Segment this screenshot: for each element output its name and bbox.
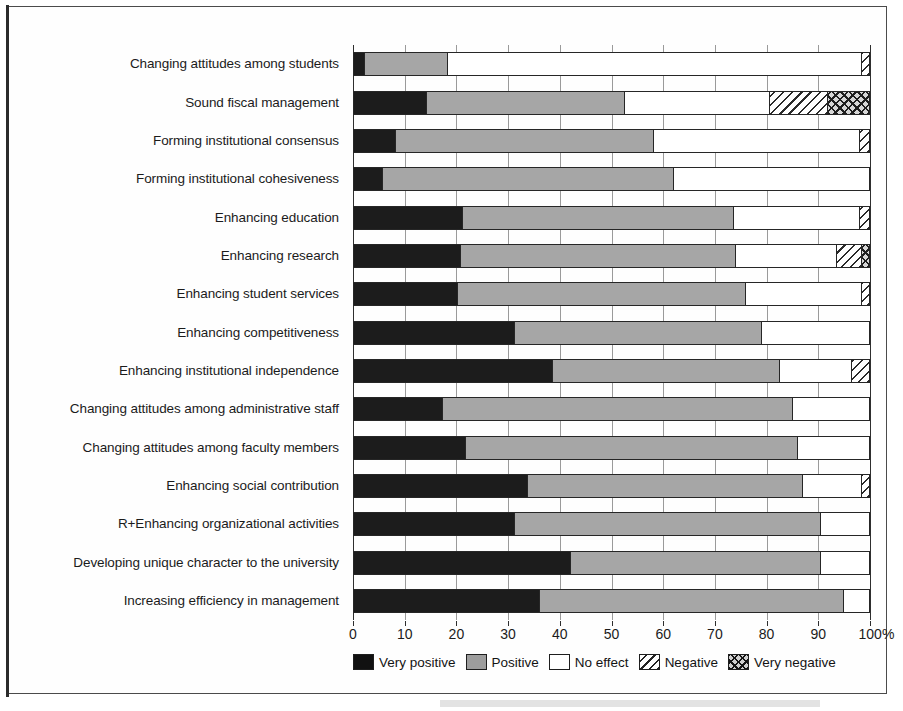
bar-segment-vpos <box>354 245 460 267</box>
category-label: Forming institutional cohesiveness <box>136 167 339 191</box>
bar-segment-pos <box>539 590 843 612</box>
legend-label: Very negative <box>754 655 836 670</box>
bar-segment-vpos <box>354 437 465 459</box>
table-row <box>353 244 870 268</box>
table-row <box>353 397 870 421</box>
bar-segment-noeff <box>673 168 869 190</box>
table-row <box>353 359 870 383</box>
stacked-bar[interactable] <box>353 551 870 575</box>
category-label: Changing attitudes among faculty members <box>83 436 339 460</box>
bar-segment-noeff <box>843 590 869 612</box>
bar-segment-neg <box>859 130 869 152</box>
category-label: R+Enhancing organizational activities <box>118 512 339 536</box>
category-label: Increasing efficiency in management <box>124 589 339 613</box>
x-tick-label: 60 <box>655 626 671 642</box>
stacked-bar[interactable] <box>353 282 870 306</box>
stacked-bar[interactable] <box>353 474 870 498</box>
bar-segment-pos <box>426 92 624 114</box>
bar-segment-noeff <box>735 245 835 267</box>
bar-segment-vpos <box>354 53 364 75</box>
legend-label: Very positive <box>379 655 456 670</box>
table-row <box>353 436 870 460</box>
bar-segment-neg <box>861 283 869 305</box>
stacked-bar[interactable] <box>353 129 870 153</box>
bar-segment-pos <box>460 245 736 267</box>
bar-segment-noeff <box>792 398 869 420</box>
bar-segment-vpos <box>354 552 570 574</box>
bar-segment-vpos <box>354 513 514 535</box>
legend-item-vneg[interactable]: Very negative <box>728 654 836 670</box>
legend-swatch-vpos-icon <box>353 654 374 670</box>
stacked-bar[interactable] <box>353 91 870 115</box>
legend-item-vpos[interactable]: Very positive <box>353 654 456 670</box>
table-row <box>353 282 870 306</box>
bar-segment-pos <box>514 322 761 344</box>
bar-segment-neg <box>851 360 869 382</box>
legend-item-pos[interactable]: Positive <box>466 654 539 670</box>
bar-segment-pos <box>462 207 732 229</box>
stacked-bar[interactable] <box>353 52 870 76</box>
x-tick-label: 20 <box>449 626 465 642</box>
stacked-bar[interactable] <box>353 244 870 268</box>
legend-item-noeff[interactable]: No effect <box>549 654 629 670</box>
legend-swatch-pos-icon <box>466 654 487 670</box>
category-axis: Changing attitudes among studentsSound f… <box>9 45 347 620</box>
legend-item-neg[interactable]: Negative <box>639 654 718 670</box>
bar-segment-neg <box>859 207 869 229</box>
table-row <box>353 321 870 345</box>
category-label: Enhancing research <box>221 244 339 268</box>
legend-label: Positive <box>492 655 539 670</box>
bar-segment-pos <box>364 53 446 75</box>
table-row <box>353 589 870 613</box>
bar-segment-pos <box>395 130 653 152</box>
bar-segment-noeff <box>745 283 861 305</box>
x-tick-label: 70 <box>707 626 723 642</box>
stacked-bar[interactable] <box>353 397 870 421</box>
stacked-bar[interactable] <box>353 512 870 536</box>
bar-segment-pos <box>514 513 820 535</box>
category-label: Enhancing social contribution <box>166 474 339 498</box>
figure-frame: Changing attitudes among studentsSound f… <box>8 6 887 694</box>
legend-swatch-neg-icon <box>639 654 660 670</box>
bar-segment-noeff <box>820 513 869 535</box>
bar-segment-noeff <box>802 475 861 497</box>
x-tick-label: 90 <box>811 626 827 642</box>
bar-segment-pos <box>465 437 797 459</box>
bar-segment-noeff <box>761 322 869 344</box>
plot-area <box>353 45 870 620</box>
bar-rows <box>353 45 870 620</box>
x-axis: 0102030405060708090100% <box>353 620 870 642</box>
x-tick-label: 0 <box>349 626 357 642</box>
category-label: Enhancing competitiveness <box>177 321 339 345</box>
stacked-bar-chart: Changing attitudes among studentsSound f… <box>9 7 886 693</box>
category-label: Developing unique character to the unive… <box>73 551 339 575</box>
bar-segment-neg <box>861 475 869 497</box>
bar-segment-neg <box>769 92 827 114</box>
stacked-bar[interactable] <box>353 436 870 460</box>
stacked-bar[interactable] <box>353 206 870 230</box>
stacked-bar[interactable] <box>353 321 870 345</box>
table-row <box>353 551 870 575</box>
bar-segment-noeff <box>447 53 862 75</box>
category-label: Changing attitudes among administrative … <box>70 397 339 421</box>
bar-segment-vpos <box>354 168 382 190</box>
category-label: Changing attitudes among students <box>130 52 339 76</box>
category-label: Enhancing education <box>215 206 339 230</box>
table-row <box>353 91 870 115</box>
table-row <box>353 512 870 536</box>
bar-segment-vpos <box>354 475 527 497</box>
table-row <box>353 206 870 230</box>
bar-segment-vpos <box>354 92 426 114</box>
bar-segment-vpos <box>354 207 462 229</box>
stacked-bar[interactable] <box>353 167 870 191</box>
stacked-bar[interactable] <box>353 589 870 613</box>
bar-segment-vpos <box>354 322 514 344</box>
legend-swatch-vneg-icon <box>728 654 749 670</box>
table-row <box>353 129 870 153</box>
bar-segment-vneg <box>827 92 869 114</box>
category-label: Sound fiscal management <box>185 91 339 115</box>
category-label: Enhancing student services <box>177 282 340 306</box>
stacked-bar[interactable] <box>353 359 870 383</box>
table-row <box>353 474 870 498</box>
bar-segment-vpos <box>354 283 457 305</box>
